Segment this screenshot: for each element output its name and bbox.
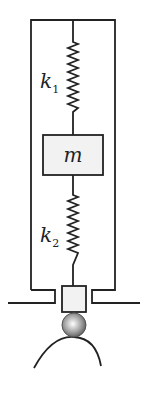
label-k1: k1 — [40, 69, 59, 96]
spring-k2 — [68, 175, 78, 286]
follower-block — [62, 286, 86, 312]
label-mass: m — [64, 143, 83, 167]
spring-k1 — [68, 20, 78, 135]
spring-mass-diagram: k1 k2 m — [0, 0, 149, 395]
cam-profile — [34, 337, 101, 368]
frame-left-bottom — [8, 290, 55, 303]
roller-ball — [62, 313, 86, 337]
label-k2: k2 — [40, 223, 59, 250]
